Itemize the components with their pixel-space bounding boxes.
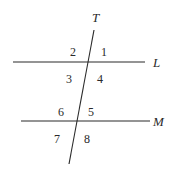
angle-label-1: 1: [101, 45, 107, 59]
label-m: M: [152, 114, 165, 129]
angle-label-7: 7: [54, 132, 60, 146]
angle-label-4: 4: [97, 72, 103, 86]
parallel-lines-diagram: T L M 1 2 3 4 5 6 7 8: [0, 0, 173, 171]
line-labels-group: T L M: [92, 10, 165, 129]
angle-label-3: 3: [66, 72, 72, 86]
lines-group: [13, 30, 150, 164]
angle-label-5: 5: [88, 105, 94, 119]
angle-label-6: 6: [58, 105, 64, 119]
angle-label-2: 2: [70, 45, 76, 59]
label-l: L: [152, 55, 160, 70]
angle-label-8: 8: [84, 132, 90, 146]
label-t: T: [92, 10, 100, 25]
angle-labels-group: 1 2 3 4 5 6 7 8: [54, 45, 107, 146]
